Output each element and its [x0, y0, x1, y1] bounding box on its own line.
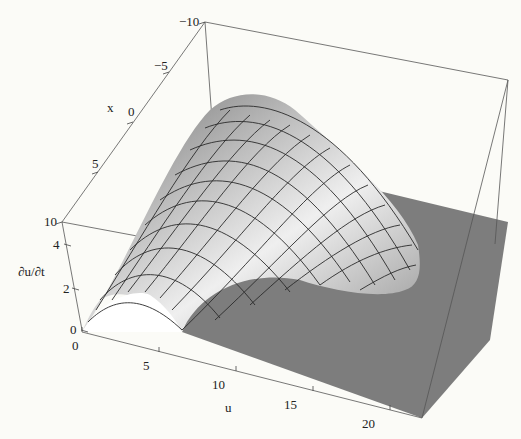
x-tick-label: 0: [128, 104, 135, 119]
x-tick-label: 10: [44, 214, 57, 229]
z-axis: 4 2 0 ∂u/∂t: [18, 237, 88, 337]
z-tick-label: 4: [53, 237, 60, 252]
x-tick-label: 5: [92, 156, 99, 171]
u-tick-label: 0: [72, 338, 79, 353]
x-tick-label: −10: [179, 14, 199, 29]
z-tick-label: 2: [63, 281, 70, 296]
z-tick-label: 0: [70, 322, 77, 337]
z-axis-label: ∂u/∂t: [18, 264, 45, 279]
surface-plot: −10 −5 0 5 10 x 4 2 0 ∂u/∂t 0 5 10 15 20…: [0, 0, 521, 439]
u-tick-label: 10: [212, 377, 225, 392]
u-axis-label: u: [225, 400, 232, 415]
u-tick-label: 20: [362, 416, 375, 431]
u-tick-label: 5: [143, 358, 150, 373]
u-tick-label: 15: [284, 397, 297, 412]
x-tick-label: −5: [154, 58, 168, 73]
x-axis-label: x: [107, 100, 114, 115]
